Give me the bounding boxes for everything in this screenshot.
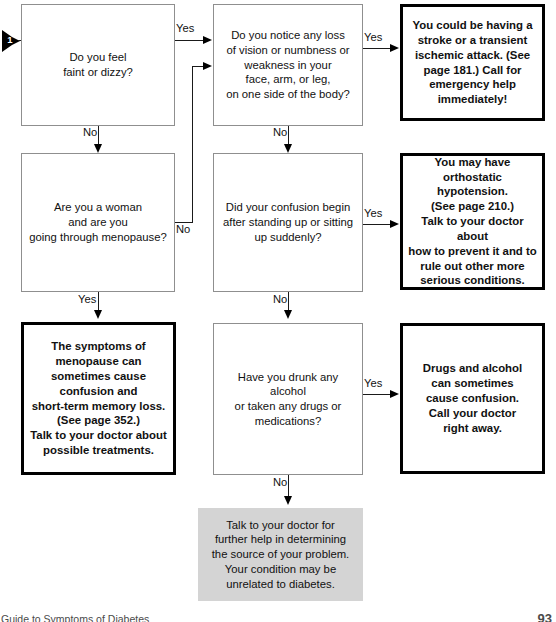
node-a1: You could be having astroke or a transie… bbox=[400, 4, 545, 121]
node-a1-text: You could be having astroke or a transie… bbox=[408, 18, 537, 107]
edge-label-q1-no: No bbox=[83, 127, 97, 138]
edge-label-q2-yes: Yes bbox=[364, 32, 382, 43]
node-a3: The symptoms ofmenopause cansometimes ca… bbox=[21, 322, 176, 475]
entry-marker: 1 bbox=[1, 28, 21, 54]
edge-q2-yes-line bbox=[363, 48, 393, 49]
edge-q4-yes-arrow bbox=[390, 220, 399, 228]
edge-q3-yes-arrow bbox=[94, 310, 102, 319]
edge-label-q2-no: No bbox=[273, 127, 287, 138]
node-q2: Do you notice any lossof vision or numbn… bbox=[213, 4, 363, 126]
edge-q1-yes-arrow bbox=[203, 36, 212, 44]
edge-label-q4-yes: Yes bbox=[364, 208, 382, 219]
edge-q2-no-arrow bbox=[284, 144, 292, 153]
edge-label-q5-yes: Yes bbox=[364, 378, 382, 389]
node-a2-text: You may haveorthostatic hypotension.(See… bbox=[408, 155, 537, 288]
edge-q1-yes-line bbox=[175, 40, 204, 41]
edge-label-q1-yes: Yes bbox=[176, 23, 194, 34]
node-a4-text: Drugs and alcoholcan sometimescause conf… bbox=[408, 361, 537, 435]
node-q1-text: Do you feelfaint or dizzy? bbox=[27, 50, 169, 79]
edge-q4-no-arrow bbox=[284, 310, 292, 319]
node-q4-text: Did your confusion beginafter standing u… bbox=[219, 200, 357, 244]
flowchart-diagram: 1 Do you feelfaint or dizzy? Do you noti… bbox=[0, 0, 556, 622]
footer-title: Guide to Symptoms of Diabetes bbox=[1, 613, 149, 622]
edge-label-q4-no: No bbox=[273, 294, 287, 305]
edge-q5-yes-arrow bbox=[390, 390, 399, 398]
node-a4: Drugs and alcoholcan sometimescause conf… bbox=[400, 323, 545, 474]
node-a3-text: The symptoms ofmenopause cansometimes ca… bbox=[29, 339, 168, 458]
node-q5-text: Have you drunk any alcoholor taken any d… bbox=[219, 370, 357, 429]
node-q3-text: Are you a womanand are yougoing through … bbox=[27, 200, 169, 244]
edge-label-q5-no: No bbox=[273, 477, 287, 488]
entry-marker-label: 1 bbox=[4, 34, 16, 46]
edge-label-q3-yes: Yes bbox=[78, 294, 96, 305]
edge-q3-no-line-v bbox=[192, 66, 193, 223]
edge-q5-yes-line bbox=[363, 394, 393, 395]
node-t1-text: Talk to your doctor forfurther help in d… bbox=[203, 518, 358, 591]
edge-q1-no-arrow bbox=[94, 144, 102, 153]
node-q1: Do you feelfaint or dizzy? bbox=[21, 4, 175, 126]
edge-label-q3-no: No bbox=[176, 224, 190, 235]
footer-page-number: 93 bbox=[538, 611, 552, 622]
node-q5: Have you drunk any alcoholor taken any d… bbox=[213, 323, 363, 475]
node-q3: Are you a womanand are yougoing through … bbox=[21, 153, 175, 292]
node-q2-text: Do you notice any lossof vision or numbn… bbox=[219, 28, 357, 101]
edge-q5-no-arrow bbox=[284, 496, 292, 505]
edge-q3-no-arrow bbox=[203, 62, 212, 70]
node-a2: You may haveorthostatic hypotension.(See… bbox=[400, 153, 545, 290]
node-q4: Did your confusion beginafter standing u… bbox=[213, 153, 363, 292]
node-t1: Talk to your doctor forfurther help in d… bbox=[198, 508, 363, 601]
edge-q2-yes-arrow bbox=[390, 44, 399, 52]
edge-q4-yes-line bbox=[363, 224, 393, 225]
